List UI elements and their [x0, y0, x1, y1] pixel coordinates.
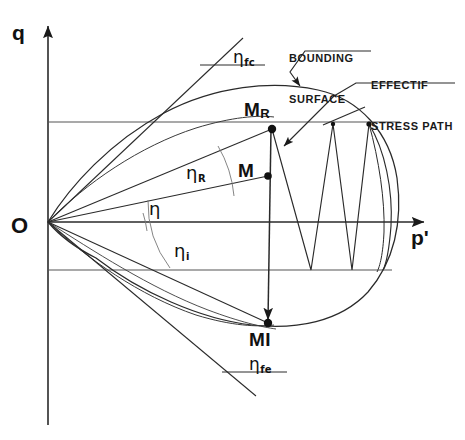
slope-label-eta-fc-sub: fc — [244, 57, 254, 68]
slope-label-eta-fe-base: η — [249, 354, 260, 374]
slope-label-eta-R-base: η — [186, 162, 197, 183]
stress-path-figure: q p' O MR M MI ηfc ηR η ηi ηfe BOUNDING … — [0, 0, 465, 440]
point-label-MI: MI — [249, 330, 271, 350]
slope-label-eta-fe: ηfe — [249, 356, 271, 374]
annotation-effectif-stress-path: EFFECTIF STRESS PATH — [371, 51, 453, 161]
reference-levels — [48, 122, 400, 270]
annotation-bounding-surface-line-1: BOUNDING — [289, 52, 354, 66]
eta-fe-ray — [48, 222, 256, 396]
point-MR — [268, 125, 276, 133]
slope-label-eta-fc-base: η — [233, 47, 244, 67]
slope-label-eta-i-sub: i — [186, 251, 189, 262]
reversal-connector — [268, 129, 271, 320]
origin-label: O — [11, 214, 28, 237]
slope-label-eta-fc: ηfc — [233, 49, 254, 67]
slope-label-eta-R-sub: R — [198, 173, 206, 184]
eta-R-arc — [218, 146, 234, 196]
slope-label-eta: η — [149, 200, 160, 219]
point-M — [264, 172, 272, 180]
annotation-effectif-stress-path-line-1: EFFECTIF — [371, 79, 453, 93]
point-label-M: M — [238, 161, 254, 181]
annotation-bounding-surface-line-2: SURFACE — [289, 93, 354, 107]
slope-label-eta-R: ηR — [186, 164, 205, 183]
point-label-MR-base: M — [244, 99, 260, 120]
eta-i-ray — [48, 222, 268, 323]
axis-group — [48, 26, 424, 425]
annotation-bounding-surface: BOUNDING SURFACE — [289, 24, 354, 134]
point-label-MR-sub: R — [260, 106, 270, 121]
eta-fc-ray — [48, 38, 243, 222]
annotation-effectif-stress-path-line-2: STRESS PATH — [371, 120, 453, 134]
slope-label-eta-fe-sub: fe — [260, 364, 271, 375]
zigzag-polyline — [272, 124, 369, 270]
slope-label-eta-i: ηi — [174, 242, 189, 261]
p-prime-axis-label: p' — [411, 227, 429, 249]
point-label-MR: MR — [244, 100, 270, 120]
slope-label-eta-i-base: η — [174, 240, 185, 261]
MR-to-MI-segment — [268, 129, 271, 320]
point-MI — [264, 319, 272, 327]
q-axis-label: q — [12, 22, 25, 44]
